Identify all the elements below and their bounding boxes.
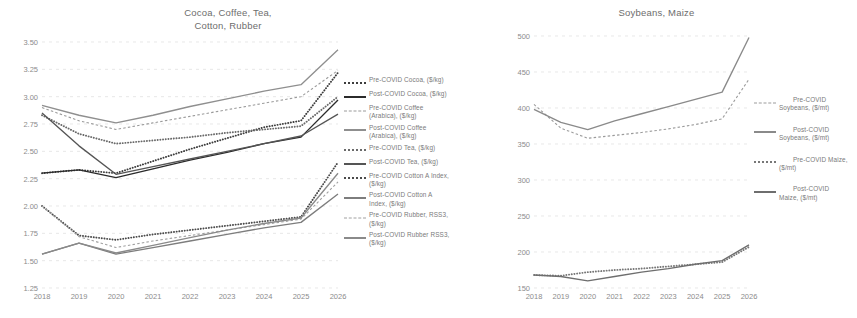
legend-swatch-icon xyxy=(754,158,776,167)
chart-title-left: Cocoa, Coffee, Tea, Cotton, Rubber xyxy=(0,6,456,32)
legend-item[interactable]: Pre-COVID Rubber, RSS3, ($/kg) xyxy=(344,211,454,228)
x-tick-label: 2021 xyxy=(606,292,623,301)
legend-item-label: Post-COVID Coffee (Arabica), ($/kg) xyxy=(369,124,426,141)
plot-area-right xyxy=(534,36,749,288)
legend-swatch-icon xyxy=(754,187,776,196)
legend-item-label: Pre-COVID Cocoa, ($/kg) xyxy=(369,76,444,84)
x-tick-label: 2024 xyxy=(687,292,704,301)
y-tick-label: 3.00 xyxy=(23,92,38,101)
legend-item-label: Pre-COVID Rubber, RSS3, ($/kg) xyxy=(369,211,448,228)
series-line xyxy=(42,73,338,174)
legend-swatch-icon xyxy=(344,146,366,155)
legend-item-label: Post-COVID Tea, ($/kg) xyxy=(369,158,438,166)
y-tick-label: 3.50 xyxy=(23,38,38,47)
x-tick-label: 2020 xyxy=(108,292,125,301)
y-tick-label: 450 xyxy=(517,68,530,77)
legend-swatch-icon xyxy=(344,160,366,169)
legend-item-label: Post-COVID Maize, ($/mt) xyxy=(779,185,829,202)
series-line xyxy=(42,70,338,129)
y-tick-label: 2.75 xyxy=(23,120,38,129)
legend-item[interactable]: Pre-COVID Coffee (Arabica), ($/kg) xyxy=(344,104,454,121)
legend-swatch-icon xyxy=(344,193,366,202)
legend-swatch-icon xyxy=(344,78,366,87)
legend-left: Pre-COVID Cocoa, ($/kg)Post-COVID Cocoa,… xyxy=(344,76,454,251)
legend-item[interactable]: Post-COVID Rubber RSS3, ($/kg) xyxy=(344,231,454,248)
legend-item[interactable]: Pre-COVID Soybeans, ($/mt) xyxy=(754,96,857,113)
series-line xyxy=(42,100,338,178)
legend-item-label: Pre-COVID Coffee (Arabica), ($/kg) xyxy=(369,104,423,121)
x-tick-label: 2026 xyxy=(330,292,347,301)
legend-item[interactable]: Pre-COVID Cocoa, ($/kg) xyxy=(344,76,454,87)
chart-title-right: Soybeans, Maize xyxy=(456,6,857,19)
series-line xyxy=(42,97,338,144)
y-tick-label: 3.25 xyxy=(23,65,38,74)
legend-swatch-icon xyxy=(754,98,776,107)
plot-area-left xyxy=(42,42,338,288)
series-line xyxy=(534,79,749,138)
legend-swatch-icon xyxy=(344,126,366,135)
x-axis-right: 201820192020202120222023202420252026 xyxy=(534,292,749,306)
x-tick-label: 2018 xyxy=(34,292,51,301)
legend-swatch-icon xyxy=(344,106,366,115)
legend-item-label: Post-COVID Cotton A Index, ($/kg) xyxy=(369,191,432,208)
x-tick-label: 2025 xyxy=(714,292,731,301)
legend-item-label: Pre-COVID Maize, ($/mt) xyxy=(779,156,848,173)
series-line xyxy=(42,173,338,254)
x-tick-label: 2022 xyxy=(182,292,199,301)
legend-swatch-icon xyxy=(344,213,366,222)
y-tick-label: 2.00 xyxy=(23,202,38,211)
x-tick-label: 2022 xyxy=(633,292,650,301)
x-tick-label: 2025 xyxy=(293,292,310,301)
legend-item-label: Pre-COVID Cotton A Index, ($/kg) xyxy=(369,172,449,189)
y-tick-label: 200 xyxy=(517,248,530,257)
legend-item-label: Pre-COVID Tea, ($/kg) xyxy=(369,144,435,152)
legend-item[interactable]: Post-COVID Maize, ($/mt) xyxy=(754,185,857,202)
legend-swatch-icon xyxy=(754,128,776,137)
legend-item-label: Post-COVID Soybeans, ($/mt) xyxy=(779,126,829,143)
legend-swatch-icon xyxy=(344,92,366,101)
x-tick-label: 2019 xyxy=(553,292,570,301)
legend-item[interactable]: Pre-COVID Cotton A Index, ($/kg) xyxy=(344,172,454,189)
legend-item[interactable]: Pre-COVID Maize, ($/mt) xyxy=(754,156,857,173)
chart-page: Cocoa, Coffee, Tea, Cotton, Rubber 1.251… xyxy=(0,0,857,318)
x-axis-left: 201820192020202120222023202420252026 xyxy=(42,292,338,306)
legend-item[interactable]: Post-COVID Coffee (Arabica), ($/kg) xyxy=(344,124,454,141)
y-tick-label: 1.75 xyxy=(23,229,38,238)
series-line xyxy=(534,37,749,129)
y-tick-label: 2.25 xyxy=(23,174,38,183)
legend-right: Pre-COVID Soybeans, ($/mt)Post-COVID Soy… xyxy=(754,96,857,215)
legend-swatch-icon xyxy=(344,233,366,242)
x-tick-label: 2019 xyxy=(71,292,88,301)
legend-swatch-icon xyxy=(344,174,366,183)
legend-item-label: Post-COVID Cocoa, ($/kg) xyxy=(369,90,447,98)
legend-item[interactable]: Pre-COVID Tea, ($/kg) xyxy=(344,144,454,155)
legend-item-label: Post-COVID Rubber RSS3, ($/kg) xyxy=(369,231,449,248)
x-tick-label: 2018 xyxy=(526,292,543,301)
y-tick-label: 1.50 xyxy=(23,256,38,265)
x-tick-label: 2024 xyxy=(256,292,273,301)
x-tick-label: 2023 xyxy=(660,292,677,301)
x-tick-label: 2026 xyxy=(741,292,758,301)
y-axis-right: 150200250300350400450500 xyxy=(496,36,530,288)
x-tick-label: 2020 xyxy=(579,292,596,301)
y-tick-label: 500 xyxy=(517,32,530,41)
y-tick-label: 2.50 xyxy=(23,147,38,156)
legend-item[interactable]: Post-COVID Cocoa, ($/kg) xyxy=(344,90,454,101)
series-line xyxy=(42,50,338,123)
y-tick-label: 350 xyxy=(517,140,530,149)
y-tick-label: 400 xyxy=(517,104,530,113)
legend-item[interactable]: Post-COVID Cotton A Index, ($/kg) xyxy=(344,191,454,208)
y-tick-label: 250 xyxy=(517,212,530,221)
chart-panel-cocoa-coffee-tea-cotton-rubber: Cocoa, Coffee, Tea, Cotton, Rubber 1.251… xyxy=(0,0,456,318)
legend-item[interactable]: Post-COVID Tea, ($/kg) xyxy=(344,158,454,169)
x-tick-label: 2023 xyxy=(219,292,236,301)
y-axis-left: 1.251.501.752.002.252.502.753.003.253.50 xyxy=(4,42,38,288)
series-line xyxy=(42,162,338,240)
y-tick-label: 300 xyxy=(517,176,530,185)
legend-item-label: Pre-COVID Soybeans, ($/mt) xyxy=(779,96,829,113)
x-tick-label: 2021 xyxy=(145,292,162,301)
legend-item[interactable]: Post-COVID Soybeans, ($/mt) xyxy=(754,126,857,143)
